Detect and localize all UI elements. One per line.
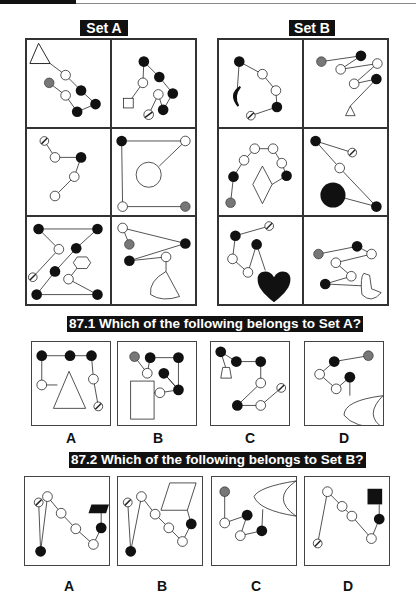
figure-diamond-chain [219,129,302,216]
q2-option-a-figure[interactable] [24,476,110,566]
q2-option-c-label[interactable]: C [246,578,266,594]
set-b-grid [217,38,389,306]
set-b-cell-2 [303,39,388,128]
set-a-cell-6 [111,216,196,305]
top-black-bar [0,0,76,4]
q2-option-a-label[interactable]: A [59,578,79,594]
set-a-label: Set A [80,20,128,36]
set-b-cell-6 [303,216,388,305]
set-b-cell-3 [218,128,303,217]
figure-hatched-chain [27,129,110,216]
set-a-cell-4 [111,128,196,217]
figure-crescent-outline-chain [305,342,383,425]
figure-pacman-chain [304,217,387,304]
set-b-cell-4 [303,128,388,217]
set-a-cell-1 [26,39,111,128]
q2-option-d-label[interactable]: D [338,578,358,594]
q1-option-c-figure[interactable] [210,341,290,426]
figure-small-triangle-chain [304,40,387,127]
figure-crescent-chain [219,40,302,127]
q2-option-d-figure[interactable] [304,476,390,566]
figure-triangle-chain [27,40,110,127]
figure-parallelogram-outline-chain [118,477,202,565]
figure-black-parallelogram-chain [25,477,109,565]
set-b-cell-1 [218,39,303,128]
question-87-1: 87.1 Which of the following belongs to S… [67,316,363,332]
figure-big-black-circle-chain [304,129,387,216]
figure-big-circle-rect [112,129,195,216]
figure-triangle-loop [32,342,110,425]
figure-crescent-top-chain [212,477,296,565]
q2-option-b-label[interactable]: B [152,578,172,594]
q1-option-b-figure[interactable] [117,341,197,426]
set-a-cell-5 [26,216,111,305]
q1-option-a-label[interactable]: A [61,430,81,446]
set-b-label: Set B [289,20,335,36]
q1-option-b-label[interactable]: B [148,430,168,446]
figure-heart-chain [219,217,302,304]
figure-sector-chain [112,217,195,304]
figure-trapezoid-chain [211,342,289,425]
set-a-cell-3 [26,128,111,217]
q1-option-d-label[interactable]: D [334,430,354,446]
top-rule [76,3,416,4]
figure-rectangle-loop [118,342,196,425]
q2-option-c-figure[interactable] [211,476,297,566]
set-a-cell-2 [111,39,196,128]
set-a-grid [25,38,197,306]
q1-option-a-figure[interactable] [31,341,111,426]
question-87-2: 87.2 Which of the following belongs to S… [69,452,366,468]
figure-black-square-chain [305,477,389,565]
figure-hexagon-chain [27,217,110,304]
q1-option-d-figure[interactable] [304,341,384,426]
set-b-cell-5 [218,216,303,305]
q2-option-b-figure[interactable] [117,476,203,566]
figure-square-chain [112,40,195,127]
q1-option-c-label[interactable]: C [240,430,260,446]
